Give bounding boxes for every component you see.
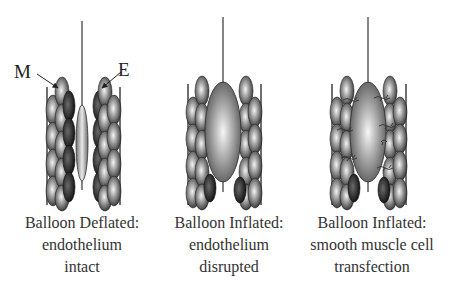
caption-line: smooth muscle cell <box>297 234 447 256</box>
displaced-endothelial-cell <box>234 177 246 203</box>
displaced-endothelial-cell <box>378 177 390 203</box>
panel-inflated-transfection <box>330 17 407 210</box>
arrow-muscle <box>37 74 58 88</box>
label-endothelium: E <box>118 60 130 79</box>
caption-line: Balloon Inflated: <box>154 212 304 234</box>
caption-line: Balloon Inflated: <box>297 212 447 234</box>
caption-inflated-transfection: Balloon Inflated: smooth muscle cell tra… <box>297 212 447 278</box>
endothelial-cells-right <box>93 77 121 211</box>
caption-line: intact <box>7 256 157 278</box>
caption-deflated: Balloon Deflated: endothelium intact <box>7 212 157 278</box>
caption-line: Balloon Deflated: <box>7 212 157 234</box>
caption-inflated-disrupted: Balloon Inflated: endothelium disrupted <box>154 212 304 278</box>
deflated-balloon <box>76 105 88 181</box>
caption-line: endothelium <box>154 234 304 256</box>
caption-line: disrupted <box>154 256 304 278</box>
smooth-muscle-cells-left <box>46 77 75 211</box>
panel-deflated <box>37 21 121 211</box>
caption-line: endothelium <box>7 234 157 256</box>
displaced-endothelial-cell <box>204 174 216 202</box>
caption-line: transfection <box>297 256 447 278</box>
panel-inflated-disrupted <box>186 17 262 210</box>
label-muscle: M <box>14 62 31 81</box>
displaced-endothelial-cell <box>348 174 360 202</box>
inflated-balloon <box>205 82 241 182</box>
